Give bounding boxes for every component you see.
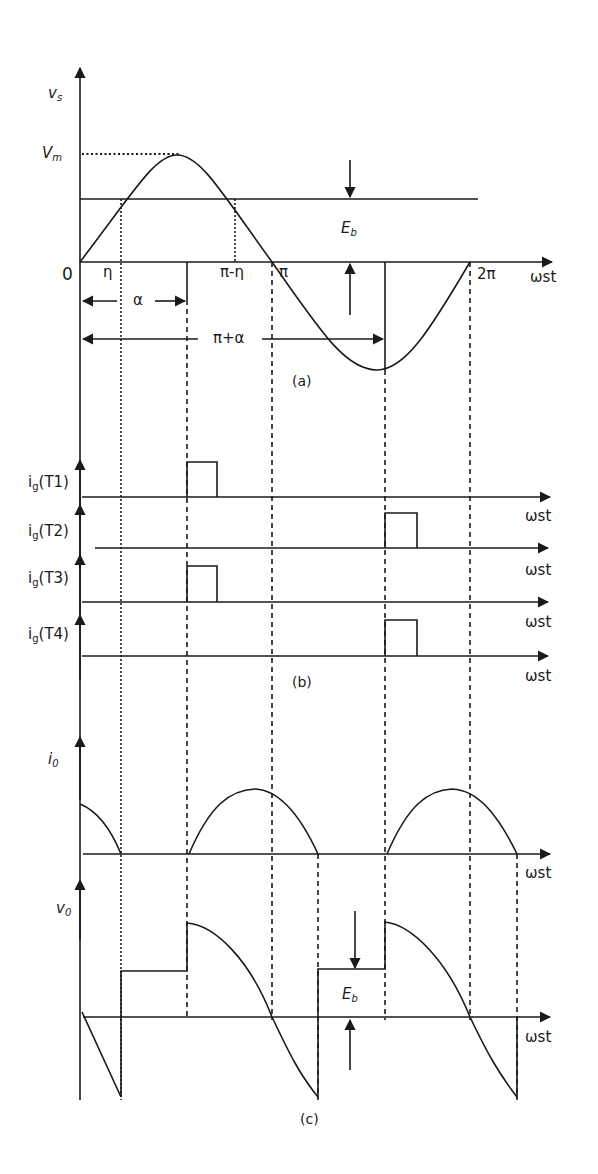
- pi-alpha-label: π+α: [213, 331, 245, 346]
- x-axis-label-io: ωst: [525, 866, 551, 881]
- panel-c-voltage: [82, 911, 550, 1097]
- caption-c: (c): [300, 1112, 319, 1126]
- tick-eta: η: [103, 265, 113, 280]
- vm-label: Vm: [42, 146, 62, 163]
- tick-2pi: 2π: [477, 267, 496, 282]
- tick-pi: π: [279, 265, 288, 280]
- x-axis-label-t2: ωst: [525, 563, 551, 578]
- ig-t4-label: ig(T4): [28, 627, 69, 644]
- x-axis-label-t4: ωst: [525, 669, 551, 684]
- panel-b: [82, 462, 550, 656]
- origin-label: 0: [62, 266, 73, 283]
- caption-b: (b): [292, 675, 312, 689]
- eb-label-a: Eb: [341, 221, 357, 238]
- io-label: i0: [48, 752, 59, 769]
- vo-label: v0: [56, 901, 71, 918]
- ig-t2-label: ig(T2): [28, 524, 69, 541]
- tick-pi-eta: π-η: [220, 265, 244, 280]
- x-axis-label-t3: ωst: [525, 615, 551, 630]
- ig-t3-label: ig(T3): [28, 571, 69, 588]
- panel-c-current: [80, 789, 550, 1100]
- panel-a: [80, 154, 552, 1100]
- x-axis-label-t1: ωst: [525, 509, 551, 524]
- x-axis-label-a: ωst: [530, 270, 556, 285]
- alpha-label: α: [133, 293, 143, 308]
- waveform-diagram: [0, 0, 598, 1174]
- x-axis-label-vo: ωst: [525, 1030, 551, 1045]
- caption-a: (a): [292, 374, 312, 388]
- vs-axis-label: vs: [48, 86, 62, 103]
- eb-label-c: Eb: [342, 987, 358, 1004]
- ig-t1-label: ig(T1): [28, 475, 69, 492]
